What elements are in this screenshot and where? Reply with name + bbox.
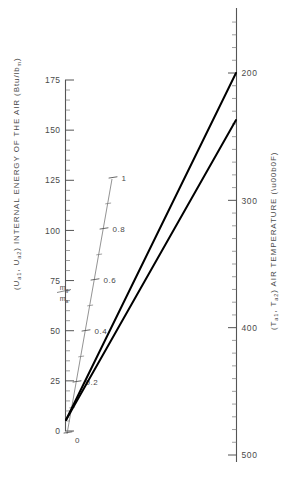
minor-tick	[105, 203, 111, 204]
air-temperature-minor-ticks	[232, 22, 237, 442]
minor-tick	[78, 356, 84, 357]
internal-energy-major-ticks	[65, 80, 74, 431]
major-tick	[91, 279, 100, 280]
mass-flow-ratio-scale-line	[67, 179, 112, 434]
tick-label: 50	[50, 326, 60, 336]
svg-text:(Ta1, Ta2) AIR TEMPERATURE (\u: (Ta1, Ta2) AIR TEMPERATURE (\u00b0F)	[269, 152, 279, 330]
mass-flow-ratio-denominator: ma	[60, 295, 69, 304]
nomograph-chart: 0255075100125150175 (Ua1, Ua2) INTERNAL …	[0, 0, 289, 477]
major-tick	[109, 177, 118, 178]
nomograph-canvas: 0255075100125150175 (Ua1, Ua2) INTERNAL …	[0, 0, 289, 477]
tick-label: 400	[242, 323, 258, 333]
internal-energy-axis-group: 0255075100125150175	[45, 75, 74, 436]
air-temperature-axis-title: (Ta1, Ta2) AIR TEMPERATURE (\u00b0F)	[269, 152, 279, 330]
major-tick	[100, 228, 109, 229]
tick-label: 200	[242, 68, 258, 78]
tick-label: 0	[55, 426, 60, 436]
internal-energy-tick-labels: 0255075100125150175	[45, 75, 60, 436]
tick-label: 25	[50, 376, 60, 386]
tick-label: 100	[45, 226, 60, 236]
major-tick	[64, 432, 73, 433]
data-lines-group	[66, 73, 236, 420]
tick-label: 150	[45, 125, 60, 135]
mass-flow-ratio-major-ticks	[64, 177, 118, 433]
tick-label: 0.6	[104, 276, 117, 285]
tick-label: 0.8	[113, 225, 126, 234]
minor-tick	[96, 254, 102, 255]
major-tick	[82, 330, 91, 331]
mass-flow-ratio-tick-labels: 00.20.40.60.81	[75, 174, 127, 445]
tick-label: 500	[242, 450, 258, 460]
line-lower	[66, 120, 236, 420]
air-temperature-axis-group: 200300400500	[228, 8, 257, 462]
svg-text:(Ua1, Ua2) INTERNAL ENERGY OF: (Ua1, Ua2) INTERNAL ENERGY OF THE AIR (B…	[12, 57, 22, 290]
minor-tick	[87, 305, 93, 306]
tick-label: 0	[75, 436, 80, 445]
line-upper	[66, 73, 236, 420]
internal-energy-axis-title: (Ua1, Ua2) INTERNAL ENERGY OF THE AIR (B…	[12, 57, 22, 290]
tick-label: 1	[122, 174, 127, 183]
mass-flow-ratio-label: mg ma	[57, 284, 71, 304]
tick-label: 175	[45, 75, 60, 85]
tick-label: 300	[242, 196, 258, 206]
tick-label: 125	[45, 175, 60, 185]
internal-energy-minor-ticks	[66, 90, 71, 421]
air-temperature-tick-labels: 200300400500	[242, 68, 258, 460]
tick-label: 0.4	[95, 327, 108, 336]
